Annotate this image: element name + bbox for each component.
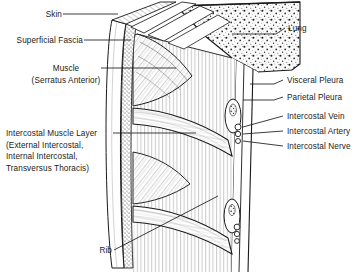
label-intercostal-vein: Intercostal Vein — [287, 111, 345, 123]
label-intercostal-line-1: Intercostal Muscle Layer — [6, 128, 118, 140]
label-parietal-pleura: Parietal Pleura — [287, 92, 342, 104]
leader-parietal-pleura — [274, 97, 283, 100]
label-intercostal-line-4: Transversus Thoracis) — [6, 163, 118, 175]
label-superficial-fascia: Superficial Fascia — [0, 35, 83, 47]
label-muscle-group: Muscle (Serratus Anterior) — [10, 63, 122, 86]
label-skin: Skin — [0, 9, 62, 21]
label-intercostal-line-2: (External Intercostal, — [6, 140, 118, 152]
label-intercostal-artery: Intercostal Artery — [287, 126, 350, 138]
label-intercostal-muscle-layer: Intercostal Muscle Layer (External Inter… — [6, 128, 118, 174]
intercostal-vein-vessel — [235, 124, 241, 130]
intercostal-artery-vessel — [235, 131, 240, 136]
label-lung: Lung — [288, 23, 307, 35]
label-muscle-name: Muscle — [10, 63, 122, 75]
label-muscle-detail: (Serratus Anterior) — [10, 75, 122, 87]
intercostal-nerve-bundle — [236, 139, 241, 144]
leader-visceral-pleura — [274, 80, 283, 84]
label-rib: Rib — [75, 245, 112, 257]
label-intercostal-line-3: Internal Intercostal, — [6, 151, 118, 163]
anatomy-figure: Skin Superficial Fascia Muscle (Serratus… — [0, 0, 364, 274]
label-visceral-pleura: Visceral Pleura — [287, 75, 343, 87]
label-intercostal-nerve: Intercostal Nerve — [287, 141, 351, 153]
